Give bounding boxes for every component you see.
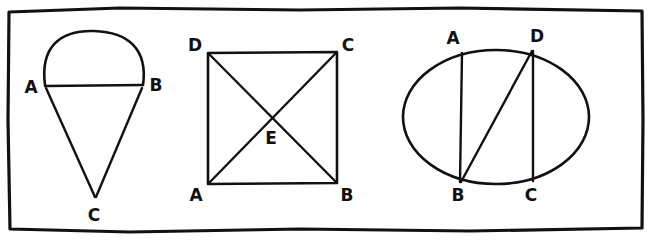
vertex-label-d: D bbox=[530, 26, 544, 46]
vertex-label-c: C bbox=[525, 185, 537, 205]
side-a-c bbox=[46, 88, 95, 197]
figure-3-ellipse-with-chords: A D B C bbox=[403, 26, 589, 205]
vertex-label-b: B bbox=[150, 75, 163, 95]
vertex-label-a: A bbox=[189, 185, 203, 205]
arc-a-to-b bbox=[44, 31, 144, 85]
figure-2-square-with-diagonals: D C A B E bbox=[188, 35, 354, 205]
side-b-c bbox=[96, 88, 142, 197]
figure-1-arc-and-triangle: A B C bbox=[24, 31, 162, 225]
chord-a-b bbox=[45, 85, 143, 86]
chord-b-d bbox=[461, 51, 532, 182]
vertex-label-c: C bbox=[342, 35, 354, 55]
vertex-label-b: B bbox=[341, 185, 354, 205]
vertex-label-b: B bbox=[452, 185, 465, 205]
geometry-figures-svg: A B C D C A B E A D B C bbox=[0, 0, 652, 245]
diagram-canvas: A B C D C A B E A D B C bbox=[0, 0, 652, 245]
vertex-label-d: D bbox=[188, 35, 202, 55]
intersection-label-e: E bbox=[265, 128, 277, 148]
chord-a-b bbox=[460, 53, 462, 182]
hand-drawn-rectangle-border bbox=[8, 8, 643, 232]
vertex-label-c: C bbox=[88, 205, 100, 225]
vertex-label-a: A bbox=[24, 77, 38, 97]
vertex-label-a: A bbox=[446, 28, 460, 48]
